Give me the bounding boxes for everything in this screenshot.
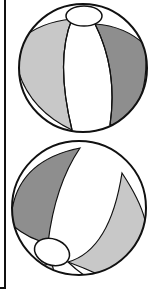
beach-ball-top	[18, 4, 147, 132]
beach-ball-bottom	[12, 141, 146, 290]
beach-balls-illustration	[0, 0, 153, 301]
